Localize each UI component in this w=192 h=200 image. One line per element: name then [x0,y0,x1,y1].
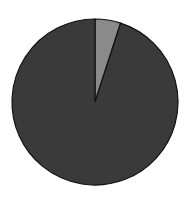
pie-chart [0,0,192,200]
pie-slice-2 [12,19,178,185]
pie-slices [12,19,178,185]
